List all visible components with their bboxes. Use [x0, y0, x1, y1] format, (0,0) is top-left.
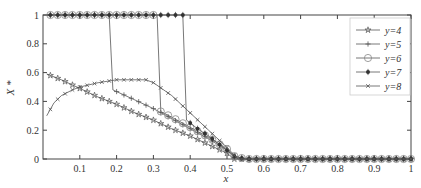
x-tick-label: 0.8: [331, 163, 344, 174]
y-tick-label: 0.4: [27, 96, 40, 107]
x-marker-icon: [63, 92, 67, 96]
legend: y=4y=5y=6y=7y=8: [350, 18, 410, 95]
y-axis-label: X *: [4, 80, 16, 96]
x-marker-icon: [174, 97, 178, 101]
legend-label: y=7: [384, 67, 402, 78]
x-marker-icon: [166, 91, 170, 95]
y-tick-label: 0.8: [27, 38, 40, 49]
line-chart: 0.10.20.30.40.50.60.70.80.9100.20.40.60.…: [0, 0, 421, 188]
plus-marker-icon: [136, 99, 141, 104]
x-axis-label: x: [223, 172, 229, 184]
x-tick-label: 0.3: [147, 163, 160, 174]
x-marker-icon: [181, 104, 185, 108]
legend-label: y=4: [384, 25, 401, 36]
plus-marker-icon: [151, 106, 156, 111]
x-marker-icon: [71, 88, 75, 92]
legend-label: y=5: [384, 39, 401, 50]
x-marker-icon: [56, 97, 60, 101]
plus-marker-icon: [143, 103, 148, 108]
y-tick-label: 1: [34, 10, 39, 21]
x-tick-label: 1: [409, 163, 414, 174]
plus-marker-icon: [114, 89, 119, 94]
x-marker-icon: [188, 111, 192, 115]
x-tick-label: 0.2: [110, 163, 123, 174]
x-marker-icon: [203, 125, 207, 129]
x-marker-icon: [196, 118, 200, 122]
x-tick-label: 0.9: [368, 163, 381, 174]
plus-marker-icon: [129, 96, 134, 101]
legend-label: y=8: [384, 81, 401, 92]
x-tick-label: 0.1: [74, 163, 87, 174]
y-tick-label: 0.2: [27, 125, 40, 136]
x-marker-icon: [210, 132, 214, 136]
plus-marker-icon: [121, 92, 126, 97]
x-marker-icon: [49, 108, 53, 112]
x-tick-label: 0.7: [294, 163, 307, 174]
y-tick-label: 0: [34, 154, 39, 165]
y-tick-label: 0.6: [27, 67, 40, 78]
legend-label: y=6: [384, 53, 401, 64]
x-tick-label: 0.4: [184, 163, 197, 174]
x-marker-icon: [152, 81, 156, 85]
x-tick-label: 0.6: [258, 163, 271, 174]
